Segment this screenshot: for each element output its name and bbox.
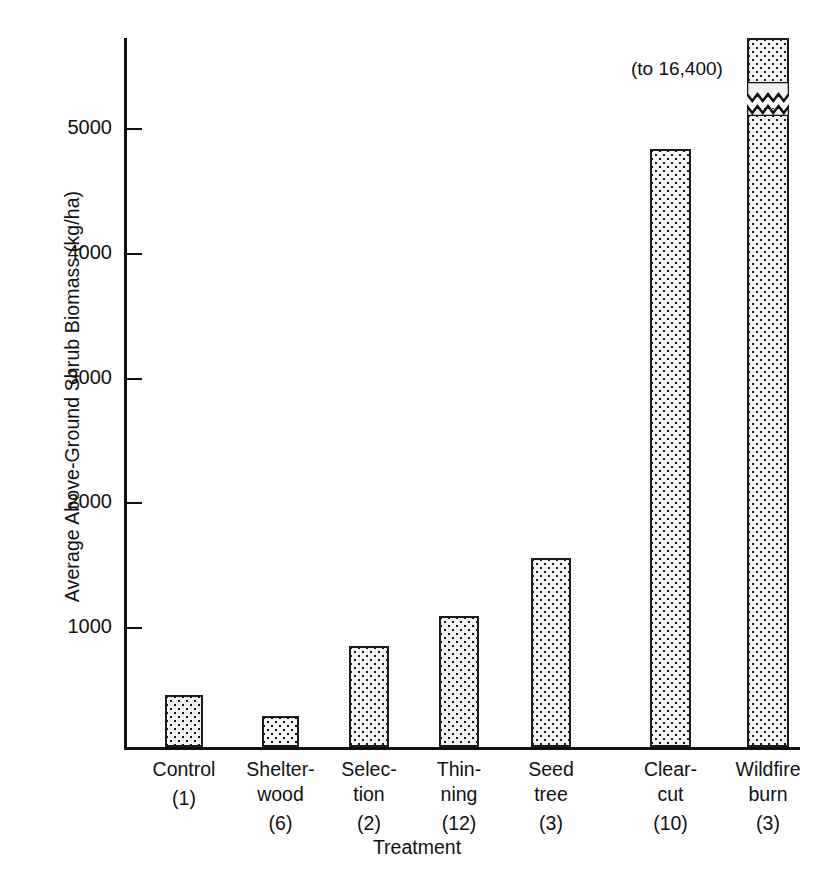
x-label-line2: burn [693,782,834,807]
bar-selection[interactable] [349,646,389,747]
x-axis-title: Treatment [0,836,834,859]
bar-thinning[interactable] [439,616,479,747]
bar-shelterwood[interactable] [262,716,299,747]
bar-chart: Average Above-Ground Shrub Biomass (kg/h… [0,0,834,876]
x-label-line1: Wildfire [693,757,834,782]
x-label-wildfire: Wildfire burn (3) [693,757,834,836]
y-tick-label: 3000 [28,367,112,387]
y-tick-label: 5000 [28,117,112,137]
axis-break-annotation: (to 16,400) [631,58,723,80]
plot-area [124,38,800,750]
bar-wildfire-lower-segment[interactable] [747,108,789,747]
bar-control[interactable] [165,695,203,747]
y-axis-title: Average Above-Ground Shrub Biomass (kg/h… [61,117,84,677]
bar-wildfire-upper-segment[interactable] [747,38,789,96]
y-tick-label: 1000 [28,616,112,636]
bar-seedtree[interactable] [531,558,571,747]
y-tick-label: 2000 [28,491,112,511]
x-label-count: (3) [693,811,834,836]
y-tick-label: 4000 [28,242,112,262]
bar-clearcut[interactable] [650,149,691,747]
